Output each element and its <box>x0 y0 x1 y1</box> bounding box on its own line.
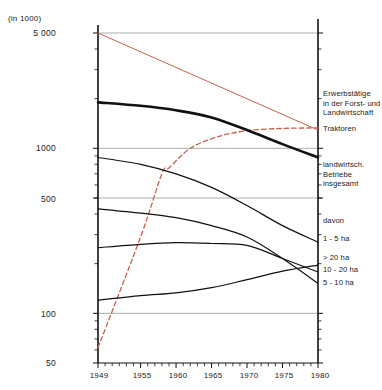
legend-traktoren: Traktoren <box>323 124 356 134</box>
chart-page: (in 1000) 5 000 1000 500 100 50 1949 195… <box>0 0 382 390</box>
x-tick-label-1975: 1975 <box>267 371 301 380</box>
legend-betriebe-insgesamt: landwirtsch. Betriebe insgesamt <box>323 160 364 189</box>
legend-size-10-20ha: 10 - 20 ha <box>323 265 358 275</box>
legend-size-1-5ha: 1 - 5 ha <box>323 234 350 244</box>
y-tick-label-50: 50 <box>8 358 56 368</box>
legend-erwerbstaetige-line1: Erwerbstätige <box>323 89 380 99</box>
series-line-2 <box>98 102 318 157</box>
series-line-6 <box>98 209 318 284</box>
legend-betriebe-line3: insgesamt <box>323 179 364 189</box>
y-tick-label-100: 100 <box>8 309 56 319</box>
series-line-5 <box>98 243 318 272</box>
legend-erwerbstaetige-line2: in der Forst- und <box>323 99 380 109</box>
axis-lines <box>98 19 318 363</box>
x-tick-label-1960: 1960 <box>161 371 195 380</box>
legend-erwerbstaetige: Erwerbstätige in der Forst- und Landwirt… <box>323 89 380 118</box>
legend-betriebe-line2: Betriebe <box>323 170 364 180</box>
x-tick-label-1965: 1965 <box>196 371 230 380</box>
x-tick-label-1970: 1970 <box>232 371 266 380</box>
x-tick-label-1949: 1949 <box>82 371 116 380</box>
data-series <box>98 33 318 348</box>
y-tick-label-500: 500 <box>8 194 56 204</box>
series-line-4 <box>98 265 318 300</box>
y-tick-label-1000: 1000 <box>8 143 56 153</box>
legend-size-gt-20ha: > 20 ha <box>323 253 349 263</box>
legend-betriebe-line1: landwirtsch. <box>323 160 364 170</box>
axis-ticks <box>93 33 323 368</box>
legend-davon-heading: davon <box>323 216 344 226</box>
gridlines <box>98 33 318 363</box>
series-line-1 <box>98 128 318 348</box>
legend-erwerbstaetige-line3: Landwirtschaft <box>323 108 380 118</box>
legend-size-5-10ha: 5 - 10 ha <box>323 278 354 288</box>
series-line-3 <box>98 157 318 242</box>
x-tick-label-1955: 1955 <box>125 371 159 380</box>
y-tick-label-5000: 5 000 <box>8 28 56 38</box>
chart-canvas <box>0 0 382 390</box>
x-tick-label-1980: 1980 <box>303 371 337 380</box>
